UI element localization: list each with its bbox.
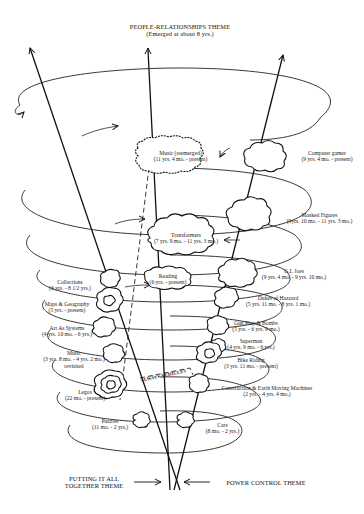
label-superman: Superman (4 yrs. 9 mo. - 6 yrs.) xyxy=(220,338,282,351)
label-maps-geography: Maps & Geography (5 yrs. - present) xyxy=(36,301,98,314)
label-bike-riding: Bike Riding (3 yrs. 11 mo. - present) xyxy=(216,357,286,370)
label-computer-games: Computer games (9 yrs. 4 mo. - present) xyxy=(290,150,364,163)
label-dukes-of-hazzard: Dukes of Hazzard (5 yrs. 11 mo. - 8 yrs.… xyxy=(238,295,318,308)
theme-title: PEOPLE-RELATIONSHIPS THEME xyxy=(100,23,260,30)
label-puzzles: Puzzles (11 mo. - 2 yrs.) xyxy=(85,418,135,431)
label-construction-machines: Construction & Earth Moving Machines (2 … xyxy=(212,385,322,398)
label-transformers: Transformers (7 yrs. 9 mo. - 11 yrs. 3 m… xyxy=(140,232,232,245)
label-music-reemerged: Music (reemerged) (11 yrs. 4 mo. - prese… xyxy=(143,150,218,163)
label-gun-play-bombs: Gun Play & Bombs (5 yrs. - 6 yrs. 9 mo.) xyxy=(225,320,287,333)
theme-subtitle: (Emerged at about 8 yrs.) xyxy=(100,30,260,37)
putting-it-all-together-theme-label: PUTTING IT ALL TOGETHER THEME xyxy=(56,475,132,489)
label-legos: Legos (22 mo. - present) xyxy=(60,389,110,402)
label-collections: Collections (6 yrs. - 8 1/2 yrs.) xyxy=(40,279,100,292)
label-music-revisited: Music (3 yrs. 8 mo. - 4 yrs. 2 mo.) revi… xyxy=(36,350,112,369)
label-art-as-systems: Art As Systems (4 yrs. 10 mo. - 6 yrs.) xyxy=(36,325,98,338)
label-gi-joes: G.I. Joes (9 yrs. 4 mo. - 9 yrs. 10 mo.) xyxy=(254,268,334,281)
label-cars: Cars (8 mo. - 2 yrs.) xyxy=(200,422,245,435)
spiral-development-diagram xyxy=(0,0,364,514)
power-control-theme-label: POWER CONTROL THEME xyxy=(216,479,316,486)
people-relationships-theme-label: PEOPLE-RELATIONSHIPS THEME (Emerged at a… xyxy=(100,23,260,37)
label-masked-figures: Masked Figures (9yrs. 10 mo. - 11 yrs. 3… xyxy=(275,212,364,225)
label-reading: Reading (6 yrs. - present) xyxy=(143,273,193,286)
